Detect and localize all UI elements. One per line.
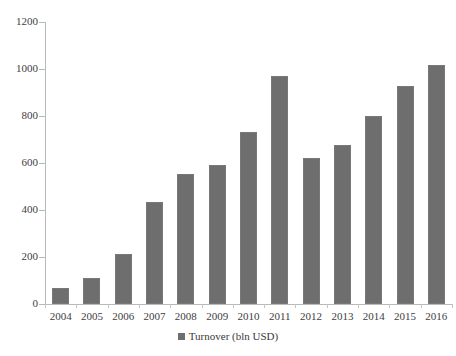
x-axis-tick-label-2015: 2015	[389, 310, 420, 322]
x-axis-tick	[170, 304, 171, 308]
bar-2010	[240, 132, 257, 304]
bar-2015	[397, 86, 414, 304]
x-axis-tick	[202, 304, 203, 308]
chart-legend: Turnover (bln USD)	[0, 330, 456, 342]
x-axis-tick-label-2010: 2010	[233, 310, 264, 322]
x-axis-tick-label-2008: 2008	[170, 310, 201, 322]
bar-2014	[365, 116, 382, 304]
y-axis-tick-label-wrap: 0	[0, 298, 38, 309]
y-axis-tick-label-wrap: 200	[0, 251, 38, 262]
x-axis-tick	[76, 304, 77, 308]
x-axis-tick	[327, 304, 328, 308]
y-axis-tick-label: 0	[2, 298, 38, 309]
x-axis-tick-label-2004: 2004	[45, 310, 76, 322]
y-axis-tick-label: 1200	[2, 16, 38, 27]
bar-2006	[115, 254, 132, 304]
x-axis-tick-label-2012: 2012	[295, 310, 326, 322]
x-axis-tick-label-2016: 2016	[421, 310, 452, 322]
x-axis-tick	[421, 304, 422, 308]
y-axis-tick-label-wrap: 1200	[0, 16, 38, 27]
x-axis-tick-label-2006: 2006	[108, 310, 139, 322]
bar-2005	[83, 278, 100, 304]
bar-2012	[303, 158, 320, 304]
bar-2013	[334, 145, 351, 304]
y-axis-tick-label: 1000	[2, 63, 38, 74]
legend-swatch-icon	[178, 333, 185, 340]
x-axis-tick	[295, 304, 296, 308]
y-axis-tick-label-wrap: 1000	[0, 63, 38, 74]
legend-label: Turnover (bln USD)	[189, 330, 278, 342]
x-axis-tick-label-2014: 2014	[358, 310, 389, 322]
bar-2011	[271, 76, 288, 304]
x-axis-tick	[389, 304, 390, 308]
x-axis-tick	[108, 304, 109, 308]
y-axis-tick-label: 800	[2, 110, 38, 121]
x-axis-tick-label-2009: 2009	[202, 310, 233, 322]
x-axis-tick-label-2011: 2011	[264, 310, 295, 322]
x-axis-tick-label-2007: 2007	[139, 310, 170, 322]
y-axis-tick-label: 200	[2, 251, 38, 262]
x-axis-tick-label-2005: 2005	[76, 310, 107, 322]
x-axis-tick	[139, 304, 140, 308]
x-axis-tick	[358, 304, 359, 308]
y-axis-tick-label-wrap: 400	[0, 204, 38, 215]
bar-chart: 020040060080010001200 200420052006200720…	[0, 0, 456, 356]
x-axis-line	[45, 304, 452, 305]
bar-2009	[209, 165, 226, 304]
bar-2016	[428, 65, 445, 304]
bar-2008	[177, 174, 194, 304]
x-axis-tick	[452, 304, 453, 308]
y-axis-tick-label: 600	[2, 157, 38, 168]
x-axis-tick-label-2013: 2013	[327, 310, 358, 322]
bar-2007	[146, 202, 163, 304]
y-axis-tick-label: 400	[2, 204, 38, 215]
x-axis-tick	[45, 304, 46, 308]
bar-2004	[52, 288, 69, 304]
x-axis-tick	[264, 304, 265, 308]
x-axis-tick	[233, 304, 234, 308]
y-axis-tick-label-wrap: 600	[0, 157, 38, 168]
bars-layer	[45, 22, 452, 304]
y-axis-tick-label-wrap: 800	[0, 110, 38, 121]
